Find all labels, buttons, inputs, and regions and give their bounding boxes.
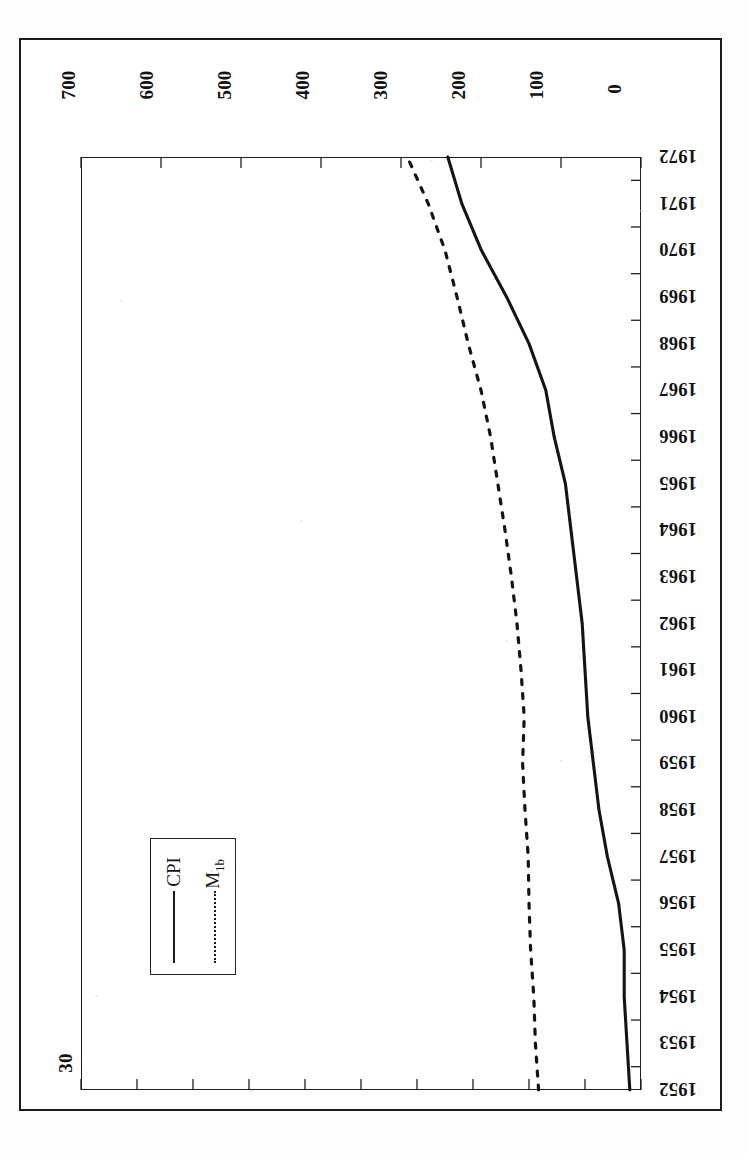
year-axis-tick: 1970 [647, 238, 709, 259]
legend-swatch-solid [173, 891, 175, 963]
legend-entry-cpi: CPI [153, 839, 195, 974]
top-axis-tick: 100 [526, 55, 548, 115]
year-axis-tick: 1961 [647, 658, 709, 679]
top-axis-tick: 700 [58, 55, 80, 115]
year-axis-tick: 1958 [647, 798, 709, 819]
scan-speckle [430, 160, 433, 162]
scan-speckle [640, 210, 643, 212]
scan-speckle [680, 430, 683, 432]
top-axis-tick: 200 [448, 55, 470, 115]
year-axis-tick: 1968 [647, 332, 709, 353]
year-axis-tick: 1955 [647, 938, 709, 959]
top-axis-tick: 600 [136, 55, 158, 115]
legend-swatch-dotted [214, 891, 216, 963]
legend: CPI M1b [150, 838, 236, 975]
legend-label-m1b-main: M [202, 872, 223, 889]
legend-label-m1b-sub: 1b [212, 859, 227, 872]
year-axis-tick: 1967 [647, 378, 709, 399]
legend-entry-m1b: M1b [194, 839, 236, 974]
series-line-m1b [407, 157, 538, 1090]
series-line-cpi [448, 157, 630, 1090]
top-axis-tick: 0 [604, 59, 626, 119]
scan-speckle [95, 995, 98, 997]
year-axis-tick: 1972 [647, 145, 709, 166]
figure-frame: 700 600 500 400 300 200 100 0 30 28 26 2… [19, 38, 722, 1111]
year-axis-tick: 1969 [647, 285, 709, 306]
year-axis-tick: 1956 [647, 891, 709, 912]
top-axis-tick: 500 [214, 55, 236, 115]
scan-speckle [250, 1090, 253, 1092]
bottom-axis-ticks [81, 1079, 641, 1090]
year-axis-tick: 1954 [647, 985, 709, 1006]
year-axis-tick: 1964 [647, 518, 709, 539]
top-axis-tick: 300 [370, 55, 392, 115]
legend-label-m1b: M1b [202, 859, 228, 889]
year-axis-tick: 1965 [647, 472, 709, 493]
year-axis-tick: 1966 [647, 425, 709, 446]
scanned-page: 700 600 500 400 300 200 100 0 30 28 26 2… [0, 0, 748, 1158]
year-axis-ticks [631, 180, 641, 1066]
top-axis-tick: 400 [292, 55, 314, 115]
bottom-axis-tick: 30 [55, 1034, 77, 1092]
year-axis-tick: 1952 [647, 1078, 709, 1099]
year-axis-tick: 1959 [647, 751, 709, 772]
year-axis-tick: 1957 [647, 845, 709, 866]
year-axis-tick: 1953 [647, 1031, 709, 1052]
scan-speckle [300, 520, 303, 522]
year-axis-tick: 1963 [647, 565, 709, 586]
scan-speckle [210, 870, 213, 872]
legend-label-cpi: CPI [163, 857, 185, 887]
year-axis-tick: 1962 [647, 612, 709, 633]
year-axis-tick: 1960 [647, 705, 709, 726]
scan-speckle [505, 640, 508, 642]
year-axis-tick: 1971 [647, 192, 709, 213]
scan-speckle [120, 300, 123, 302]
scan-speckle [560, 760, 563, 762]
top-axis-ticks [81, 157, 641, 168]
